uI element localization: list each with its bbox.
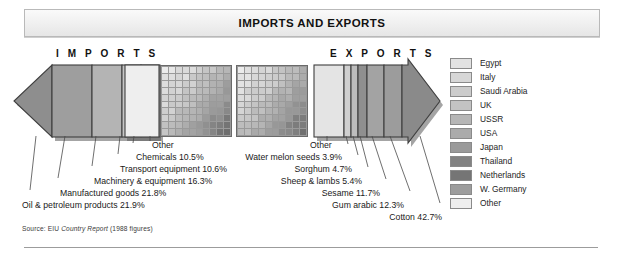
source-label: Source: (22, 225, 46, 232)
waffle-cell (266, 74, 272, 80)
exports-heading: E X P O R T S (330, 48, 435, 59)
legend-item[interactable]: USSR (450, 112, 610, 126)
waffle-cell (183, 122, 189, 128)
waffle-cell (169, 81, 175, 87)
exports-partners-grid (236, 65, 308, 137)
waffle-cell (238, 108, 244, 114)
waffle-cell (169, 88, 175, 94)
waffle-cell (259, 67, 265, 73)
waffle-cell (238, 95, 244, 101)
legend-swatch (450, 114, 472, 125)
legend-item-label: Italy (480, 72, 495, 82)
waffle-cell (176, 88, 182, 94)
legend-item[interactable]: Thailand (450, 154, 610, 168)
waffle-cell (162, 102, 168, 108)
waffle-cell (210, 95, 216, 101)
waffle-cell (190, 129, 196, 135)
callout-exports-sorghum: Sorghum 4.7% (230, 164, 352, 174)
waffle-cell (266, 81, 272, 87)
waffle-cell (224, 115, 230, 121)
waffle-cell (224, 129, 230, 135)
waffle-cell (266, 108, 272, 114)
waffle-cell (245, 88, 251, 94)
source-publication: Country Report (61, 225, 108, 232)
waffle-cell (300, 108, 306, 114)
waffle-cell (245, 129, 251, 135)
imports-heading: I M P O R T S (56, 48, 158, 59)
waffle-cell (238, 115, 244, 121)
waffle-cell (210, 122, 216, 128)
waffle-cell (286, 88, 292, 94)
legend-item[interactable]: Egypt (450, 56, 610, 70)
waffle-cell (293, 122, 299, 128)
waffle-cell (293, 102, 299, 108)
waffle-cell (252, 108, 258, 114)
waffle-cell (224, 95, 230, 101)
exports-segment-sesame (367, 65, 384, 137)
waffle-cell (266, 95, 272, 101)
callout-exports-sesame: Sesame 11.7% (258, 188, 380, 198)
legend-item[interactable]: USA (450, 126, 610, 140)
callout-exports-other: Other (310, 140, 332, 150)
waffle-cell (169, 122, 175, 128)
legend-item[interactable]: Other (450, 196, 610, 210)
waffle-cell (203, 81, 209, 87)
waffle-cell (273, 108, 279, 114)
waffle-cell (279, 81, 285, 87)
waffle-cell (176, 115, 182, 121)
callout-exports-sheep: Sheep & lambs 5.4% (240, 176, 362, 186)
waffle-cell (293, 129, 299, 135)
title-banner: IMPORTS AND EXPORTS (24, 9, 600, 37)
waffle-cell (210, 108, 216, 114)
legend-item[interactable]: W. Germany (450, 182, 610, 196)
waffle-cell (273, 102, 279, 108)
leader-imports-oil (30, 136, 36, 190)
waffle-cell (300, 67, 306, 73)
waffle-cell (300, 95, 306, 101)
legend-item[interactable]: Netherlands (450, 168, 610, 182)
legend-item-label: USA (480, 128, 497, 138)
legend-item[interactable]: Saudi Arabia (450, 84, 610, 98)
legend-swatch (450, 184, 472, 195)
callout-imports-transport: Transport equipment 10.6% (120, 164, 227, 174)
waffle-cell (183, 81, 189, 87)
legend-item[interactable]: Japan (450, 140, 610, 154)
waffle-cell (259, 81, 265, 87)
exports-arrow-chart (312, 62, 442, 144)
waffle-cell (169, 74, 175, 80)
waffle-cell (203, 67, 209, 73)
waffle-cell (273, 88, 279, 94)
waffle-cell (190, 67, 196, 73)
waffle-cell (245, 115, 251, 121)
waffle-cell (300, 88, 306, 94)
legend-item[interactable]: UK (450, 98, 610, 112)
callout-exports-watermelon: Water melon seeds 3.9% (220, 152, 342, 162)
waffle-cell (210, 81, 216, 87)
waffle-cell (293, 115, 299, 121)
waffle-cell (162, 122, 168, 128)
waffle-cell (203, 115, 209, 121)
waffle-cell (224, 67, 230, 73)
waffle-cell (183, 129, 189, 135)
waffle-cell (252, 115, 258, 121)
waffle-cell (183, 115, 189, 121)
waffle-cell (183, 108, 189, 114)
waffle-cell (300, 102, 306, 108)
waffle-cell (224, 81, 230, 87)
waffle-cell (169, 115, 175, 121)
waffle-cell (176, 81, 182, 87)
legend-item[interactable]: Italy (450, 70, 610, 84)
waffle-cell (210, 102, 216, 108)
legend-item-label: UK (480, 100, 492, 110)
legend-item-label: Saudi Arabia (480, 86, 528, 96)
waffle-cell (176, 129, 182, 135)
waffle-cell (183, 88, 189, 94)
bottom-divider (24, 247, 598, 248)
waffle-cell (252, 74, 258, 80)
waffle-cell (169, 108, 175, 114)
waffle-cell (273, 95, 279, 101)
waffle-cell (266, 115, 272, 121)
waffle-cell (279, 74, 285, 80)
imports-segment-manufactured-goods (52, 65, 92, 137)
waffle-cell (190, 115, 196, 121)
